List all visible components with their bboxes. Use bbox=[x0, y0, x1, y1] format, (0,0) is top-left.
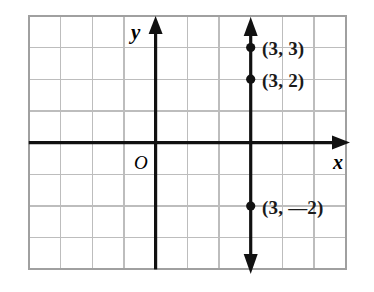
data-point-3-2 bbox=[246, 75, 255, 84]
coordinate-plane-figure: y x O (3, 3) (3, 2) (3, —2) bbox=[0, 0, 374, 292]
coordinate-plane-svg bbox=[0, 0, 374, 292]
data-point-3-3 bbox=[246, 43, 255, 52]
y-axis-label: y bbox=[131, 22, 140, 43]
origin-label: O bbox=[134, 153, 148, 172]
plotted-line-x-equals-3 bbox=[244, 17, 258, 274]
point-label-3-3: (3, 3) bbox=[262, 39, 304, 58]
x-axis-label: x bbox=[333, 152, 343, 172]
x-axis bbox=[29, 136, 350, 150]
data-point-3-n2 bbox=[246, 201, 255, 210]
point-label-3-negative-2: (3, —2) bbox=[262, 198, 324, 217]
point-label-3-2: (3, 2) bbox=[262, 71, 304, 90]
